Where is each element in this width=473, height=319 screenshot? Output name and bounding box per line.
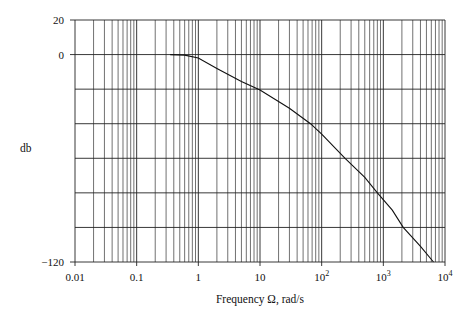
x-tick-label: 104: [438, 269, 453, 283]
grid: [70, 20, 445, 266]
x-tick-label: 103: [376, 269, 391, 283]
x-tick-label: 10: [255, 271, 267, 283]
x-tick-labels: 0.010.1110102103104: [65, 269, 452, 283]
y-tick-label: −120: [41, 256, 64, 268]
x-tick-label: 0.1: [130, 271, 144, 283]
x-tick-label: 102: [314, 269, 329, 283]
x-tick-exponent: 2: [325, 269, 329, 278]
x-tick-label: 1: [196, 271, 202, 283]
x-tick-exponent: 4: [449, 269, 453, 278]
x-axis-title: Frequency Ω, rad/s: [216, 293, 305, 306]
y-tick-labels: 200−120: [41, 14, 64, 268]
y-tick-label: 0: [59, 49, 65, 61]
y-axis-title: db: [20, 142, 32, 154]
x-tick-exponent: 3: [387, 269, 391, 278]
y-tick-label: 20: [53, 14, 65, 26]
x-tick-label: 0.01: [65, 271, 84, 283]
bode-magnitude-chart: 0.010.1110102103104 200−120 db Frequency…: [0, 0, 473, 319]
